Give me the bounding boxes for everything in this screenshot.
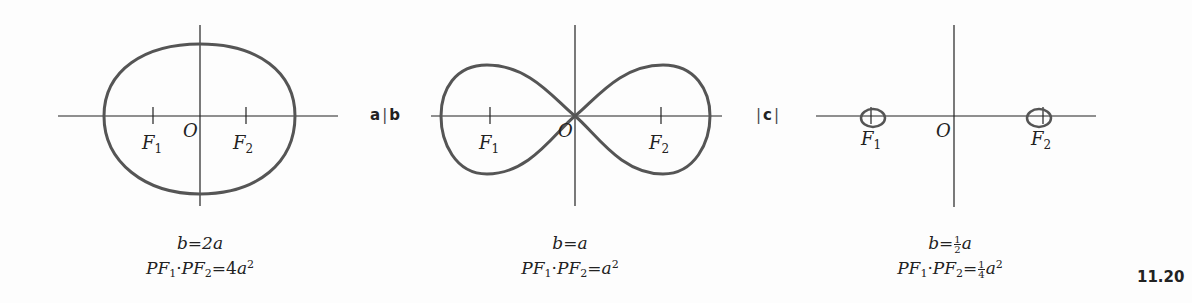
panel-b-f2-letter: F xyxy=(649,132,662,153)
caption-pf1: PF xyxy=(146,258,169,278)
panel-c-f1-letter: F xyxy=(861,128,874,149)
panel-c-oval-right xyxy=(1027,109,1051,127)
panel-c-caption-line2: PF1·PF2=14a2 xyxy=(830,254,1070,285)
panel-a-origin-label: O xyxy=(183,122,198,140)
caption-eq: = xyxy=(212,258,226,278)
caption-pf1: PF xyxy=(521,258,544,278)
panel-a-f1-label: F1 xyxy=(142,134,162,155)
caption-var: a xyxy=(237,258,247,278)
caption-pf1: PF xyxy=(897,258,920,278)
panel-c-caption: b=12a PF1·PF2=14a2 xyxy=(830,232,1070,285)
panel-tag-c: c xyxy=(763,106,772,124)
panel-tag-c-wrap: |c| xyxy=(754,108,781,123)
caption-pf2: PF xyxy=(182,258,205,278)
panel-tag-c-right-bar: | xyxy=(774,106,779,124)
panel-c-f2-label: F2 xyxy=(1031,130,1051,151)
caption-eq: = xyxy=(563,233,577,253)
panel-b-f2-label: F2 xyxy=(649,134,669,155)
panel-c-origin-label: O xyxy=(936,122,951,140)
caption-exp: 2 xyxy=(996,258,1003,271)
frac-den: 2 xyxy=(954,245,960,254)
figure-number: 11.20 xyxy=(1137,268,1184,286)
panel-a-caption-line2: PF1·PF2=4a2 xyxy=(80,254,320,285)
caption-pf2: PF xyxy=(557,258,580,278)
caption-b: b xyxy=(552,233,563,253)
panel-b-f1-sub: 1 xyxy=(492,142,500,156)
panel-b-f1-letter: F xyxy=(479,132,492,153)
panel-c-f1-label: F1 xyxy=(861,130,881,151)
frac-den: 4 xyxy=(978,270,984,279)
panel-a-caption: b=2a PF1·PF2=4a2 xyxy=(80,232,320,285)
panel-tag-b: b xyxy=(389,106,400,124)
panel-a-f2-sub: 2 xyxy=(246,142,254,156)
caption-sub2: 2 xyxy=(205,267,212,280)
caption-var: a xyxy=(986,258,996,278)
caption-pf2: PF xyxy=(933,258,956,278)
caption-eq: = xyxy=(963,258,977,278)
panel-tag-a-b: a|b xyxy=(370,108,400,123)
caption-eq: = xyxy=(939,233,953,253)
caption-exp: 2 xyxy=(247,258,254,271)
panel-a-f1-sub: 1 xyxy=(155,142,163,156)
caption-eq: = xyxy=(188,233,202,253)
panel-b-f1-label: F1 xyxy=(479,134,499,155)
panel-a-f1-letter: F xyxy=(142,132,155,153)
panel-b-caption-line2: PF1·PF2=a2 xyxy=(450,254,690,285)
panel-c-f1-sub: 1 xyxy=(874,138,882,152)
panel-b-caption-line1: b=a xyxy=(450,232,690,254)
panel-b-f2-sub: 2 xyxy=(662,142,670,156)
caption-sub2: 2 xyxy=(956,267,963,280)
panel-a-f2-letter: F xyxy=(233,132,246,153)
caption-fraction-half: 12 xyxy=(954,235,960,254)
panel-tag-divider: | xyxy=(382,106,387,124)
panel-a-caption-line1: b=2a xyxy=(80,232,320,254)
panel-c-f2-sub: 2 xyxy=(1044,138,1052,152)
caption-rhs: 2a xyxy=(202,233,223,253)
figure-11-20: O F1 F2 a|b O F1 F2 |c| O F1 F2 b=2a PF1… xyxy=(0,0,1192,303)
panel-c-caption-line1: b=12a xyxy=(830,232,1070,254)
panel-c-oval-left xyxy=(861,109,885,127)
caption-b: b xyxy=(928,233,939,253)
panel-c-f2-letter: F xyxy=(1031,128,1044,149)
caption-exp: 2 xyxy=(612,258,619,271)
caption-rhs: a xyxy=(578,233,588,253)
panel-tag-c-left-bar: | xyxy=(756,106,761,124)
panel-c-axes xyxy=(816,25,1096,207)
caption-b: b xyxy=(177,233,188,253)
panel-a-f2-label: F2 xyxy=(233,134,253,155)
caption-eq: = xyxy=(587,258,601,278)
panel-tag-a: a xyxy=(370,106,380,124)
caption-sub1: 1 xyxy=(545,267,552,280)
caption-coef: 4 xyxy=(226,258,237,278)
panel-b-caption: b=a PF1·PF2=a2 xyxy=(450,232,690,285)
caption-var: a xyxy=(601,258,611,278)
caption-fraction-quarter: 14 xyxy=(978,260,984,279)
caption-var: a xyxy=(962,233,972,253)
panel-b-origin-label: O xyxy=(558,122,573,140)
